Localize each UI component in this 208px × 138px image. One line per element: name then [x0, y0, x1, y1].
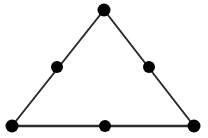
triangle-diagram	[0, 0, 208, 138]
vertex-bottom-right-dot	[188, 120, 201, 133]
left-edge-midpoint-dot	[51, 61, 63, 73]
diagram-background	[0, 0, 208, 138]
figure-canvas	[0, 0, 208, 138]
vertex-bottom-left-dot	[6, 120, 19, 133]
right-edge-midpoint-dot	[143, 61, 155, 73]
bottom-edge-midpoint-dot	[99, 120, 111, 132]
vertex-apex-dot	[98, 4, 111, 17]
